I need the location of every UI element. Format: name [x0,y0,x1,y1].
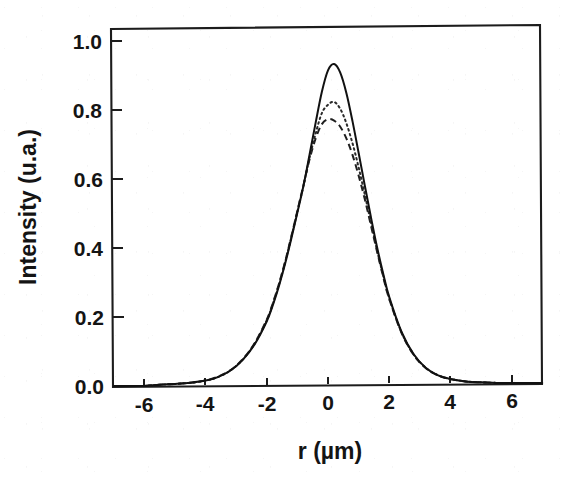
y-tick-label: 0.8 [73,99,103,122]
y-tick-label: 0.2 [75,306,104,329]
y-tick-label: 0.0 [75,375,104,398]
y-tick-label: 1.0 [73,30,102,53]
curve-dotted [114,102,542,386]
y-tick-label: 0.6 [74,168,103,191]
x-tick-label: -4 [196,392,215,415]
intensity-profile-chart: 1.0 0.8 0.6 0.4 0.2 0.0 -6 -4 -2 0 2 4 6 [0,0,569,477]
y-tick-label: 0.4 [74,237,104,260]
figure-container: 1.0 0.8 0.6 0.4 0.2 0.0 -6 -4 -2 0 2 4 6 [0,0,569,477]
x-tick-label: -2 [258,392,277,415]
x-tick-label: 4 [444,390,456,413]
curve-dashed [114,119,542,386]
plot-frame [111,25,542,387]
x-tick-label: -6 [135,393,154,416]
x-tick-label: 2 [383,390,395,413]
curve-solid [114,64,542,386]
data-curves [114,64,542,386]
x-tick-label: 6 [506,389,518,412]
x-tick-label: 0 [322,391,334,414]
y-axis-tick-labels: 1.0 0.8 0.6 0.4 0.2 0.0 [73,30,104,398]
x-axis-title: r (µm) [298,438,362,464]
x-axis-tick-labels: -6 -4 -2 0 2 4 6 [135,389,518,416]
y-axis-title: Intensity (u.a.) [15,129,41,285]
